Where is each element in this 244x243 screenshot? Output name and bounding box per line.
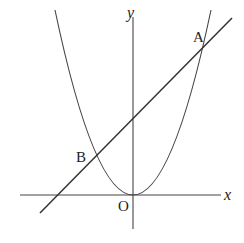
point-b-label: B: [76, 149, 86, 165]
origin-label: O: [118, 198, 129, 214]
point-a-label: A: [193, 29, 204, 45]
x-axis-label: x: [223, 186, 231, 203]
straight-line: [40, 18, 232, 213]
diagram-canvas: y x O A B: [0, 0, 244, 243]
coordinate-diagram: y x O A B: [0, 0, 244, 243]
y-axis-label: y: [125, 4, 135, 22]
